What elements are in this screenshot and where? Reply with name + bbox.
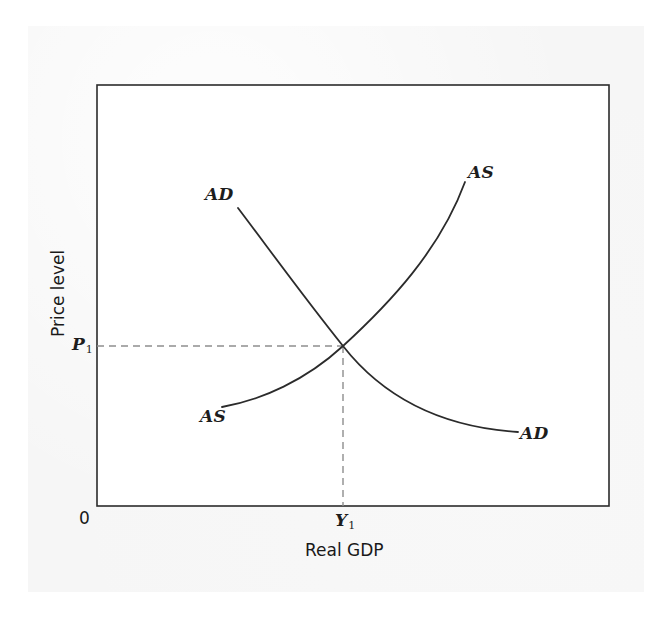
output-tick-label: Y1 <box>335 512 354 529</box>
origin-label: 0 <box>79 510 90 527</box>
ad-curve-label-lower-right: AD <box>520 425 549 442</box>
price-tick-symbol: P <box>72 334 85 354</box>
y-axis-title: Price level <box>48 250 68 337</box>
ad-as-figure: AD AS AS AD P1 Y1 0 Price level Real GDP <box>0 0 669 619</box>
price-tick-subscript: 1 <box>86 343 93 356</box>
output-tick-subscript: 1 <box>348 519 355 532</box>
output-tick-symbol: Y <box>335 510 347 530</box>
ad-curve-label-upper-left: AD <box>205 186 234 203</box>
x-axis-title: Real GDP <box>305 542 384 559</box>
price-level-tick-label: P1 <box>72 336 92 353</box>
as-curve-label-upper-right: AS <box>468 164 494 181</box>
as-curve-label-lower-left: AS <box>200 408 226 425</box>
